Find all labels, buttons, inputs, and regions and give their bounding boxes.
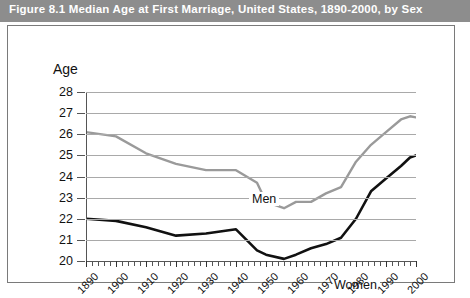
series-line-women: [86, 155, 416, 259]
y-tick-label-23: 23: [59, 191, 73, 205]
x-tick-1948: [260, 261, 261, 266]
y-tick-21: [77, 240, 85, 241]
x-tick-1964: [308, 261, 309, 266]
y-tick-28: [77, 92, 85, 93]
x-tick-1932: [212, 261, 213, 266]
x-tick-1928: [200, 261, 201, 266]
x-tick-1952: [272, 261, 273, 266]
x-tick-1938: [230, 261, 231, 266]
y-tick-label-28: 28: [59, 85, 73, 99]
x-tick-1922: [182, 261, 183, 266]
x-tick-1926: [194, 261, 195, 266]
x-tick-1998: [410, 261, 411, 266]
y-tick-26: [77, 134, 85, 135]
x-tick-1980: [356, 261, 357, 267]
y-tick-23: [77, 198, 85, 199]
x-tick-1934: [218, 261, 219, 266]
figure-title-bar: Figure 8.1 Median Age at First Marriage,…: [0, 0, 470, 22]
x-tick-1890: [86, 261, 87, 267]
x-tick-1958: [290, 261, 291, 266]
y-tick-24: [77, 177, 85, 178]
x-tick-1902: [122, 261, 123, 266]
x-tick-1988: [380, 261, 381, 266]
x-tick-label-1940: 1940: [225, 270, 251, 296]
y-tick-label-26: 26: [59, 127, 73, 141]
gridline-25: [86, 155, 416, 156]
x-tick-1898: [110, 261, 111, 266]
x-tick-1974: [338, 261, 339, 266]
x-tick-1910: [146, 261, 147, 267]
y-tick-label-21: 21: [59, 233, 73, 247]
x-tick-1982: [362, 261, 363, 266]
x-tick-1960: [296, 261, 297, 267]
y-tick-label-20: 20: [59, 254, 73, 268]
x-tick-1894: [98, 261, 99, 266]
x-tick-label-1990: 1990: [375, 270, 401, 296]
x-tick-1992: [392, 261, 393, 266]
y-tick-label-27: 27: [59, 106, 73, 120]
x-tick-1918: [170, 261, 171, 266]
x-tick-1912: [152, 261, 153, 266]
x-tick-1896: [104, 261, 105, 266]
y-tick-22: [77, 219, 85, 220]
x-tick-1962: [302, 261, 303, 266]
x-tick-label-1890: 1890: [75, 270, 101, 296]
y-tick-20: [77, 261, 85, 262]
x-tick-label-1930: 1930: [195, 270, 221, 296]
series-label-men: Men: [249, 192, 279, 206]
x-tick-label-1950: 1950: [255, 270, 281, 296]
x-tick-label-1910: 1910: [135, 270, 161, 296]
x-tick-1930: [206, 261, 207, 267]
x-tick-label-2000: 2000: [405, 270, 431, 296]
x-tick-1994: [398, 261, 399, 266]
x-tick-1942: [242, 261, 243, 266]
x-tick-1940: [236, 261, 237, 267]
x-tick-1984: [368, 261, 369, 266]
y-tick-label-22: 22: [59, 212, 73, 226]
x-tick-1892: [92, 261, 93, 266]
x-tick-1900: [116, 261, 117, 267]
x-tick-1986: [374, 261, 375, 266]
x-axis-area: 1890190019101920193019401950196019701980…: [86, 261, 416, 298]
y-tick-25: [77, 155, 85, 156]
plot-area: 28 27 26 25 24 23 22 21 20: [86, 92, 416, 261]
x-tick-1970: [326, 261, 327, 267]
y-tick-label-24: 24: [59, 170, 73, 184]
chart-frame: Age 28 27 26 25 24 23 22: [7, 25, 455, 283]
x-tick-1946: [254, 261, 255, 266]
x-tick-1904: [128, 261, 129, 266]
x-tick-1950: [266, 261, 267, 267]
y-tick-label-25: 25: [59, 148, 73, 162]
y-tick-27: [77, 113, 85, 114]
x-tick-1990: [386, 261, 387, 267]
x-tick-label-1960: 1960: [285, 270, 311, 296]
gridline-27: [86, 113, 416, 114]
x-tick-1908: [140, 261, 141, 266]
x-tick-1968: [320, 261, 321, 266]
x-tick-label-1970: 1970: [315, 270, 341, 296]
gridline-24: [86, 177, 416, 178]
x-tick-1916: [164, 261, 165, 266]
x-tick-2000: [416, 261, 417, 267]
x-tick-1906: [134, 261, 135, 266]
x-tick-1966: [314, 261, 315, 266]
x-tick-1976: [344, 261, 345, 266]
gridline-28: [86, 92, 416, 93]
gridline-22: [86, 219, 416, 220]
x-tick-1996: [404, 261, 405, 266]
x-tick-1936: [224, 261, 225, 266]
y-axis-title: Age: [53, 61, 78, 77]
figure-title: Figure 8.1 Median Age at First Marriage,…: [9, 3, 423, 15]
x-tick-1954: [278, 261, 279, 266]
gridline-26: [86, 134, 416, 135]
x-tick-1944: [248, 261, 249, 266]
x-tick-label-1980: 1980: [345, 270, 371, 296]
x-tick-1972: [332, 261, 333, 266]
x-tick-1924: [188, 261, 189, 266]
x-tick-1978: [350, 261, 351, 266]
x-tick-1914: [158, 261, 159, 266]
gridline-21: [86, 240, 416, 241]
x-tick-1956: [284, 261, 285, 266]
x-tick-label-1920: 1920: [165, 270, 191, 296]
